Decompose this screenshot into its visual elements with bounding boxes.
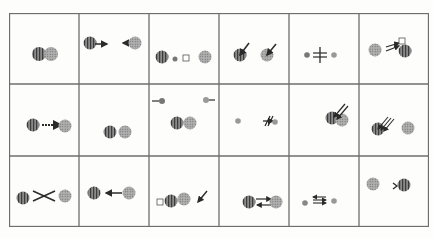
striped-circle-icon [243, 196, 256, 209]
cell-r3c1 [17, 190, 72, 205]
small-dot-icon [173, 57, 178, 62]
diagonal-arrow-icon [198, 191, 207, 202]
cell-r2c4 [235, 116, 278, 126]
cell-r2c5 [326, 104, 349, 127]
cell-r1c5 [304, 47, 337, 63]
dotted-circle-icon [402, 122, 415, 135]
dotted-circle-icon [367, 178, 380, 191]
cell-r2c2 [104, 126, 132, 139]
dotted-circle-icon [119, 126, 132, 139]
striped-circle-icon [398, 179, 411, 192]
small-dot-icon [302, 200, 308, 206]
striped-circle-icon [156, 51, 169, 64]
small-dot-icon [304, 52, 310, 58]
striped-circle-icon [32, 47, 46, 61]
striped-circle-icon [17, 192, 30, 205]
cell-r1c6 [369, 38, 412, 58]
dotted-circle-icon [336, 114, 349, 127]
small-square-icon [399, 38, 405, 44]
cell-r3c5 [302, 197, 337, 206]
cell-r2c3 [152, 97, 215, 130]
dotted-circle-icon [184, 117, 197, 130]
small-square-icon [157, 199, 163, 205]
cell-r2c1 [27, 119, 72, 133]
small-dot-icon [331, 198, 337, 204]
dotted-circle-icon [129, 37, 142, 50]
dotted-circle-icon [178, 193, 191, 206]
dotted-circle-icon [44, 47, 58, 61]
dotted-circle-icon [59, 120, 72, 133]
striped-circle-icon [171, 117, 184, 130]
striped-circle-icon [104, 126, 117, 139]
striped-circle-icon [88, 187, 101, 200]
cell-r1c4 [234, 43, 277, 62]
dotted-circle-icon [123, 187, 136, 200]
dotted-circle-icon [369, 44, 382, 57]
small-dot-icon [159, 98, 165, 104]
cell-r3c3 [157, 191, 207, 208]
angle-bracket-icon [393, 183, 397, 189]
cell-r1c3 [156, 51, 212, 64]
small-dot-icon [235, 118, 241, 124]
small-dot-icon [331, 52, 337, 58]
striped-circle-icon [84, 37, 97, 50]
cell-r3c2 [88, 187, 136, 200]
dotted-circle-icon [199, 51, 212, 64]
cell-r2c6 [372, 117, 415, 136]
cell-r3c6 [367, 178, 411, 192]
dotted-circle-icon [59, 190, 72, 203]
striped-circle-icon [399, 45, 412, 58]
grid-lines [9, 13, 429, 227]
cell-r3c4 [243, 196, 283, 209]
cell-r1c2 [84, 37, 142, 50]
dotted-circle-icon [270, 196, 283, 209]
small-dot-icon [272, 119, 278, 125]
small-square-icon [183, 55, 189, 61]
cell-r1c1 [32, 47, 58, 61]
striped-circle-icon [27, 119, 40, 132]
small-dot-icon [203, 97, 209, 103]
striped-circle-icon [165, 195, 178, 208]
diagram-grid [9, 13, 429, 227]
